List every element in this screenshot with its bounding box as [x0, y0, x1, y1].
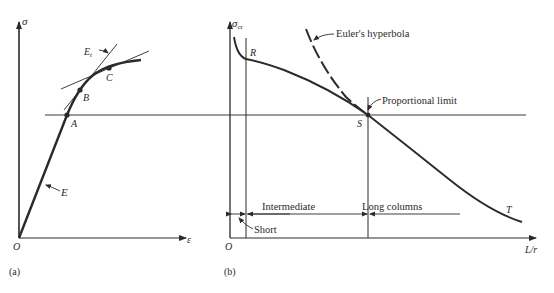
sigma-axis-label: σ — [22, 15, 28, 27]
point-c-label: C — [106, 72, 113, 83]
point-a — [64, 112, 69, 117]
point-c — [106, 65, 111, 70]
tangent-modulus-label: Et — [83, 46, 93, 59]
panel-b: σcr L/r O R S T Euler's hyperbola Propor… — [224, 17, 537, 278]
et-sub: t — [90, 51, 93, 59]
point-s — [366, 113, 371, 118]
stress-strain-curve — [19, 60, 141, 238]
sigma-cr-sub: cr — [237, 23, 243, 31]
et-main: E — [83, 46, 90, 57]
proportional-limit-label: Proportional limit — [382, 95, 457, 106]
elastic-modulus-label: E — [60, 186, 68, 198]
sigma-cr-axis-label: σcr — [232, 17, 244, 31]
origin-label-a: O — [13, 241, 20, 252]
e-pointer-arrow — [46, 185, 60, 191]
point-s-label: S — [357, 118, 362, 129]
point-r-label: R — [249, 47, 256, 58]
point-t-label: T — [506, 204, 513, 215]
euler-hyperbola — [306, 29, 368, 115]
panel-a-caption: (a) — [9, 266, 20, 278]
intermediate-label: Intermediate — [262, 201, 315, 212]
proportional-limit-pointer-arrow — [368, 99, 381, 110]
point-a-label: A — [70, 118, 78, 129]
origin-label-b: O — [225, 241, 232, 252]
long-columns-label: Long columns — [362, 201, 422, 212]
buckling-diagram: σ ε O Et E A B C (a) — [0, 0, 554, 293]
et-pointer-arrow — [99, 50, 108, 53]
point-b-label: B — [83, 92, 89, 103]
euler-pointer-arrow — [314, 34, 334, 40]
tangent-line-shallow — [61, 51, 149, 89]
panel-b-caption: (b) — [224, 266, 236, 278]
epsilon-axis-label: ε — [187, 234, 191, 245]
euler-hyperbola-label: Euler's hyperbola — [336, 28, 410, 39]
l-over-r-axis-label: L/r — [524, 244, 537, 255]
point-b — [77, 87, 82, 92]
short-label: Short — [254, 224, 277, 235]
critical-stress-curve — [234, 37, 522, 222]
